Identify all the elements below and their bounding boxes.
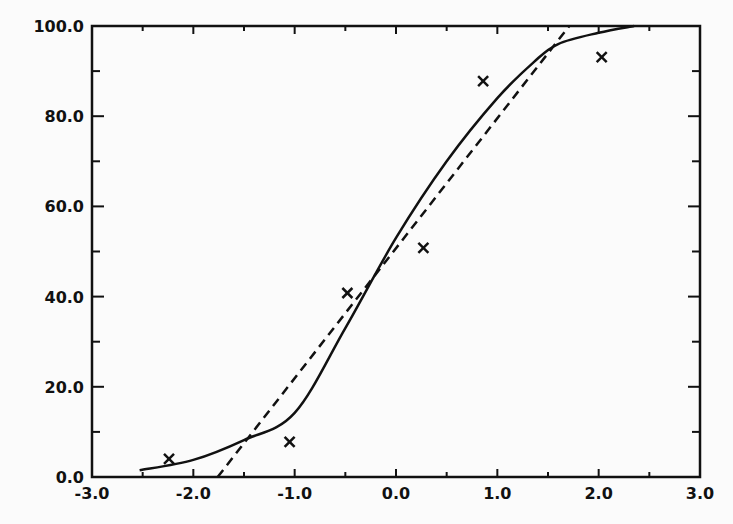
x-marker-icon bbox=[478, 76, 488, 86]
x-marker-icon bbox=[164, 454, 174, 464]
plot-frame bbox=[92, 26, 700, 477]
sigmoid-fit-curve bbox=[140, 26, 635, 470]
y-tick-label: 40.0 bbox=[45, 288, 84, 307]
x-axis-ticks: -3.0-2.0-1.00.01.02.03.0 bbox=[75, 26, 715, 503]
x-marker-icon bbox=[418, 243, 428, 253]
y-axis-ticks: 0.020.040.060.080.0100.0 bbox=[33, 17, 700, 487]
x-tick-label: 1.0 bbox=[483, 484, 511, 503]
x-tick-label: 2.0 bbox=[584, 484, 612, 503]
y-tick-label: 60.0 bbox=[45, 197, 84, 216]
linear-fit-line bbox=[218, 26, 570, 477]
plot-border bbox=[92, 26, 700, 477]
x-tick-label: -1.0 bbox=[277, 484, 312, 503]
y-tick-label: 20.0 bbox=[45, 378, 84, 397]
series-layer bbox=[140, 26, 635, 477]
x-tick-label: 0.0 bbox=[382, 484, 410, 503]
x-tick-label: 3.0 bbox=[686, 484, 714, 503]
y-tick-label: 80.0 bbox=[45, 107, 84, 126]
x-tick-label: -2.0 bbox=[176, 484, 211, 503]
x-marker-icon bbox=[597, 52, 607, 62]
y-tick-label: 0.0 bbox=[56, 468, 84, 487]
x-marker-icon bbox=[285, 437, 295, 447]
y-tick-label: 100.0 bbox=[33, 17, 84, 36]
x-marker-icon bbox=[342, 288, 352, 298]
chart: -3.0-2.0-1.00.01.02.03.0 0.020.040.060.0… bbox=[0, 0, 733, 524]
